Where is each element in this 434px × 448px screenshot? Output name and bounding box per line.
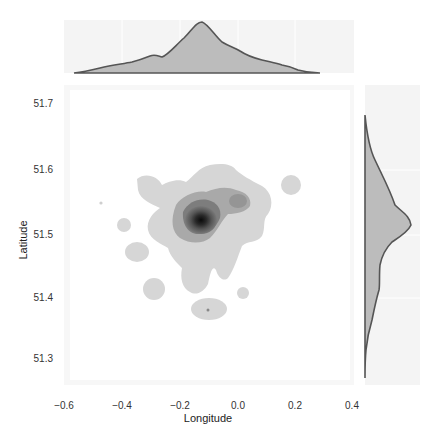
x-tick: −0.6 xyxy=(54,400,74,411)
x-axis-label: Longitude xyxy=(184,412,232,424)
x-tick: 0.0 xyxy=(231,400,245,411)
y-tick: 51.7 xyxy=(34,98,54,109)
x-axis-ticks: −0.6 −0.4 −0.2 0.0 0.2 0.4 xyxy=(54,400,359,411)
y-axis-label: Latitude xyxy=(17,220,29,259)
kde-small-spot xyxy=(207,309,210,312)
y-axis-ticks: 51.7 51.6 51.5 51.4 51.3 xyxy=(34,98,54,364)
right-marginal-axes xyxy=(365,85,420,385)
x-tick: 0.4 xyxy=(345,400,359,411)
kde-peak-core xyxy=(185,206,217,234)
y-tick: 51.4 xyxy=(34,292,54,303)
y-tick: 51.3 xyxy=(34,353,54,364)
y-tick: 51.5 xyxy=(34,229,54,240)
joint-axes xyxy=(64,85,354,385)
x-tick: −0.2 xyxy=(170,400,190,411)
y-tick: 51.6 xyxy=(34,164,54,175)
x-tick: 0.2 xyxy=(288,400,302,411)
x-tick: −0.4 xyxy=(112,400,132,411)
kde-secondary-peak xyxy=(229,194,247,208)
jointplot-figure: 51.7 51.6 51.5 51.4 51.3 −0.6 −0.4 −0.2 … xyxy=(0,0,434,448)
top-marginal-axes xyxy=(64,20,354,73)
